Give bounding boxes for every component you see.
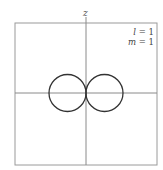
quantum-numbers-annotation: l = 1 m = 1: [128, 27, 154, 47]
m-value-row: m = 1: [128, 37, 154, 47]
diagram-canvas: [0, 0, 163, 170]
orbital-diagram: z l = 1 m = 1: [0, 0, 163, 170]
z-axis-label: z: [83, 9, 88, 18]
m-symbol: m: [128, 37, 136, 47]
m-value: = 1: [139, 37, 154, 47]
l-symbol: l: [133, 27, 136, 37]
l-value: = 1: [139, 27, 154, 37]
l-value-row: l = 1: [128, 27, 154, 37]
